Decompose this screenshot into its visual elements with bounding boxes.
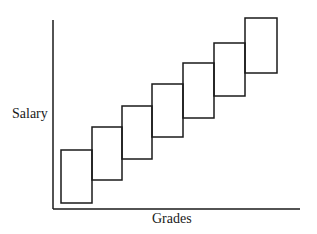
grade-band-1 [61, 150, 92, 203]
grade-band-6 [214, 43, 245, 96]
grade-band-5 [183, 63, 214, 118]
y-axis-label: Salary [12, 106, 48, 122]
grade-band-7 [245, 18, 277, 73]
x-axis-label: Grades [152, 211, 192, 227]
grade-band-4 [152, 84, 183, 137]
grade-band-3 [122, 106, 152, 159]
grade-salary-bands [61, 18, 277, 203]
grade-band-2 [92, 127, 122, 180]
